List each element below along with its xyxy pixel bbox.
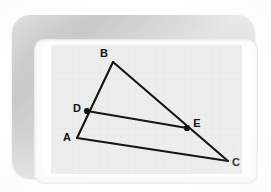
vertex-label-C: C — [232, 156, 240, 168]
point-D-dot — [84, 108, 90, 114]
vertex-label-D: D — [73, 102, 81, 114]
vertex-label-B: B — [100, 47, 108, 59]
screenshot-root: A B C D E — [0, 0, 271, 192]
drawing-canvas: A B C D E — [51, 45, 242, 174]
geometry-figure: A B C D E — [51, 45, 242, 174]
vertex-label-A: A — [63, 131, 71, 143]
segment-AB — [77, 62, 113, 138]
vertex-label-E: E — [193, 117, 200, 129]
point-E-dot — [184, 125, 190, 131]
device-frame: A B C D E — [12, 15, 255, 178]
